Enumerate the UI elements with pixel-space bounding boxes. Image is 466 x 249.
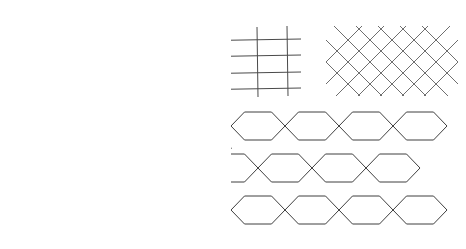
hex-left-clip-mask	[0, 0, 231, 249]
geometric-patterns-figure	[0, 0, 466, 249]
patterns-svg-canvas	[0, 0, 466, 249]
